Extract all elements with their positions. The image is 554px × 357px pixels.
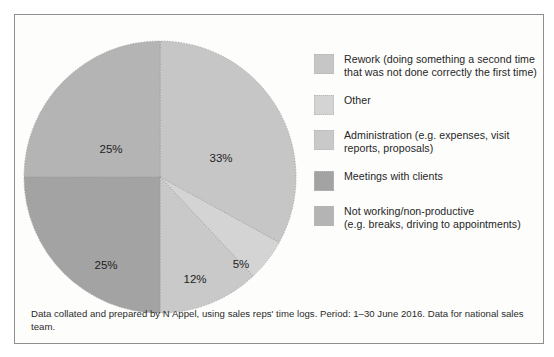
figure-caption: Data collated and prepared by N Appel, u… bbox=[31, 307, 531, 333]
pie-slice-group bbox=[24, 41, 296, 313]
legend-label-other: Other bbox=[344, 94, 371, 107]
pie-value-label-not-working-non-productive: 25% bbox=[99, 143, 122, 155]
pie-value-label-rework: 33% bbox=[209, 152, 232, 164]
legend-label-rework: Rework (doing something a second time th… bbox=[344, 53, 537, 80]
legend-swatch-administration bbox=[314, 130, 334, 150]
legend-label-meetings-with-clients: Meetings with clients bbox=[344, 170, 443, 183]
legend-swatch-other bbox=[314, 95, 334, 115]
legend-label-administration: Administration (e.g. expenses, visit rep… bbox=[344, 129, 510, 156]
pie-slice-meetings-with-clients[interactable] bbox=[24, 177, 160, 313]
legend-item-not-working[interactable]: Not working/non-productive (e.g. breaks,… bbox=[314, 205, 539, 232]
legend-swatch-not-working bbox=[314, 206, 334, 226]
chart-legend: Rework (doing something a second time th… bbox=[314, 53, 539, 245]
legend-item-meetings-with-clients[interactable]: Meetings with clients bbox=[314, 170, 539, 191]
legend-item-administration[interactable]: Administration (e.g. expenses, visit rep… bbox=[314, 129, 539, 156]
legend-item-rework[interactable]: Rework (doing something a second time th… bbox=[314, 53, 539, 80]
legend-item-other[interactable]: Other bbox=[314, 94, 539, 115]
legend-label-not-working: Not working/non-productive (e.g. breaks,… bbox=[344, 205, 521, 232]
figure-panel: 33%5%12%25%25% Rework (doing something a… bbox=[14, 14, 544, 344]
pie-value-label-meetings-with-clients: 25% bbox=[94, 259, 117, 271]
pie-slice-not-working-non-productive[interactable] bbox=[24, 41, 160, 177]
legend-swatch-meetings-with-clients bbox=[314, 171, 334, 191]
pie-value-label-other: 5% bbox=[233, 258, 250, 270]
pie-chart: 33%5%12%25%25% bbox=[18, 35, 308, 320]
pie-chart-svg: 33%5%12%25%25% bbox=[18, 35, 308, 320]
pie-value-label-administration: 12% bbox=[183, 273, 206, 285]
legend-swatch-rework bbox=[314, 54, 334, 74]
